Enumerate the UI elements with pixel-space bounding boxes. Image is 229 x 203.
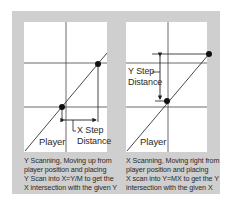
y-step-label: Y Step xyxy=(128,67,154,76)
y-step-distance-label: Distance xyxy=(128,78,162,87)
x-step-label: X Step xyxy=(77,126,103,135)
left-caption-line: Y Scanning, Moving up from xyxy=(24,156,117,165)
x-step-distance-label: Distance xyxy=(77,137,111,146)
right-upper-dot xyxy=(206,51,212,57)
left-caption-line: X intersection with the given Y xyxy=(24,183,117,192)
right-player-label: Player xyxy=(140,137,166,146)
left-lower-dot xyxy=(59,104,65,110)
right-caption-line: player position and placing xyxy=(126,165,219,174)
right-caption: X Scanning, Moving right from player pos… xyxy=(126,156,219,192)
right-caption-line: intersection with the given X xyxy=(126,183,219,192)
right-caption-line: X Scanning, Moving right from xyxy=(126,156,219,165)
right-caption-line: X scan into Y=MX to get the Y xyxy=(126,174,219,183)
left-caption-line: Y Scan into X=Y/M to get the xyxy=(24,174,117,183)
left-player-label: Player xyxy=(39,137,65,146)
right-lower-dot xyxy=(164,98,170,104)
left-upper-dot xyxy=(95,61,101,67)
right-grid xyxy=(126,22,207,152)
left-caption: Y Scanning, Moving up from player positi… xyxy=(24,156,117,192)
left-caption-line: player position and placing xyxy=(24,165,117,174)
